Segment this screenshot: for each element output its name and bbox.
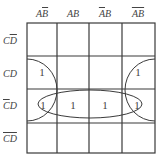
column-label-ab: AB bbox=[58, 9, 88, 19]
cell-r2-c0: 1 bbox=[28, 99, 58, 111]
karnaugh-map: AB AB AB AB CD CD CD CD 1 1 1 1 1 1 bbox=[0, 0, 165, 164]
cell-r1-c3: 1 bbox=[123, 66, 153, 78]
column-label-ab-bar: AB bbox=[27, 9, 57, 19]
column-label-a-bar-b-bar: AB bbox=[123, 9, 153, 19]
column-label-a-bar-b: AB bbox=[90, 9, 120, 19]
cell-r1-c0: 1 bbox=[27, 66, 57, 78]
cell-r2-c3: 1 bbox=[122, 99, 152, 111]
row-label-c-bar-d-bar: CD bbox=[3, 134, 25, 144]
cell-r2-c1: 1 bbox=[58, 99, 88, 111]
cell-r2-c2: 1 bbox=[90, 99, 120, 111]
row-label-c-d-bar: CD bbox=[3, 36, 25, 46]
row-label-cd: CD bbox=[3, 69, 25, 79]
row-label-c-bar-d: CD bbox=[3, 101, 25, 111]
